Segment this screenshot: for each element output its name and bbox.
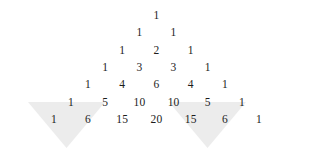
- pascal-cell-r6-c3: 20: [151, 114, 163, 126]
- pascal-cell-r3-c3: 1: [205, 62, 211, 74]
- pascal-cell-r5-c2: 10: [133, 97, 145, 109]
- pascal-cell-r5-c5: 1: [239, 97, 245, 109]
- pascal-cell-r3-c1: 3: [136, 62, 142, 74]
- pascal-cell-r5-c3: 10: [168, 97, 180, 109]
- pascal-cell-r4-c4: 1: [222, 79, 228, 91]
- pascal-cell-r6-c0: 1: [51, 114, 57, 126]
- pascal-cell-r6-c6: 1: [256, 114, 262, 126]
- pascal-cell-r2-c0: 1: [119, 45, 125, 57]
- pascal-cell-r3-c2: 3: [171, 62, 177, 74]
- pascal-cell-r2-c1: 2: [154, 45, 160, 57]
- pascal-cell-r5-c4: 5: [205, 97, 211, 109]
- pascal-cell-r4-c3: 4: [188, 79, 194, 91]
- pascal-cell-r1-c1: 1: [171, 28, 177, 40]
- pascal-numbers-layer: 111121133114641151010511615201561: [0, 0, 313, 148]
- pascal-cell-r5-c1: 5: [102, 97, 108, 109]
- pascal-cell-r1-c0: 1: [136, 28, 142, 40]
- pascal-cell-r4-c2: 6: [154, 79, 160, 91]
- pascal-cell-r6-c5: 6: [222, 114, 228, 126]
- pascals-triangle-figure: 111121133114641151010511615201561: [0, 0, 313, 148]
- pascal-cell-r4-c1: 4: [119, 79, 125, 91]
- pascal-cell-r4-c0: 1: [85, 79, 91, 91]
- pascal-cell-r6-c2: 15: [116, 114, 128, 126]
- pascal-cell-r2-c2: 1: [188, 45, 194, 57]
- pascal-cell-r5-c0: 1: [68, 97, 74, 109]
- pascal-cell-r0-c0: 1: [154, 10, 160, 22]
- pascal-cell-r6-c4: 15: [185, 114, 197, 126]
- pascal-cell-r6-c1: 6: [85, 114, 91, 126]
- pascal-cell-r3-c0: 1: [102, 62, 108, 74]
